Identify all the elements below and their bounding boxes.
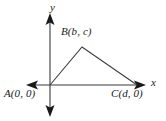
- x-axis-label: x: [151, 77, 156, 88]
- vertex-label-c: C(d, 0): [111, 88, 143, 99]
- y-axis-label: y: [50, 2, 55, 13]
- geometry-figure: y x B(b, c) A(0, 0) C(d, 0): [0, 0, 166, 121]
- vertex-label-b: B(b, c): [61, 26, 92, 37]
- coordinate-plane-svg: [0, 0, 166, 121]
- triangle-group: [50, 47, 137, 85]
- vertex-label-a: A(0, 0): [4, 88, 35, 99]
- triangle-sides-ab-bc: [50, 47, 137, 85]
